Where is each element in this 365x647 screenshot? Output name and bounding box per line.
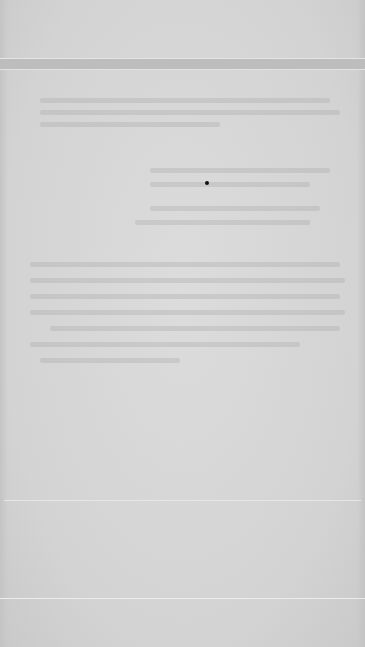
header-rule-band xyxy=(0,58,365,70)
marker-dot xyxy=(205,181,209,185)
page-edge-shadow-right xyxy=(357,0,365,647)
page-edge-shadow-left xyxy=(0,0,8,647)
scanned-page xyxy=(0,0,365,647)
faint-rule-line xyxy=(4,500,361,501)
bottom-rule-line xyxy=(0,598,365,599)
